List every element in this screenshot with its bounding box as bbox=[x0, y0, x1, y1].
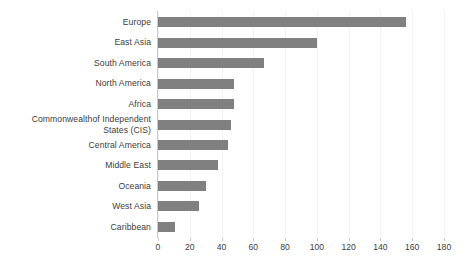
gridline bbox=[412, 12, 413, 237]
tick-label: 180 bbox=[437, 242, 451, 253]
tick-mark bbox=[349, 238, 350, 241]
category-axis-labels: EuropeEast AsiaSouth AmericaNorth Americ… bbox=[0, 12, 155, 237]
bar bbox=[158, 201, 199, 211]
tick-label: 0 bbox=[156, 242, 161, 253]
tick-mark bbox=[412, 238, 413, 241]
category-label: Middle East bbox=[0, 160, 151, 170]
bar bbox=[158, 58, 264, 68]
bar-chart: EuropeEast AsiaSouth AmericaNorth Americ… bbox=[0, 0, 467, 272]
tick-mark bbox=[444, 238, 445, 241]
category-label: North America bbox=[0, 78, 151, 88]
value-axis-line bbox=[157, 11, 158, 238]
tick-label: 80 bbox=[280, 242, 290, 253]
gridline bbox=[444, 12, 445, 237]
tick-label: 60 bbox=[249, 242, 259, 253]
tick-label: 20 bbox=[185, 242, 195, 253]
tick-mark bbox=[253, 238, 254, 241]
bar bbox=[158, 140, 228, 150]
category-label: East Asia bbox=[0, 37, 151, 47]
category-label: West Asia bbox=[0, 201, 151, 211]
bar bbox=[158, 79, 234, 89]
category-label: Central America bbox=[0, 140, 151, 150]
category-label: South America bbox=[0, 58, 151, 68]
bar bbox=[158, 160, 218, 170]
bar bbox=[158, 120, 231, 130]
bar bbox=[158, 38, 317, 48]
tick-label: 40 bbox=[217, 242, 227, 253]
category-label: Oceania bbox=[0, 181, 151, 191]
tick-mark bbox=[222, 238, 223, 241]
category-label: Africa bbox=[0, 99, 151, 109]
category-label: Caribbean bbox=[0, 222, 151, 232]
tick-label: 100 bbox=[310, 242, 324, 253]
gridline bbox=[317, 12, 318, 237]
tick-mark bbox=[380, 238, 381, 241]
tick-label: 140 bbox=[373, 242, 387, 253]
tick-mark bbox=[158, 238, 159, 241]
tick-mark bbox=[285, 238, 286, 241]
tick-label: 120 bbox=[341, 242, 355, 253]
gridline bbox=[380, 12, 381, 237]
tick-mark bbox=[317, 238, 318, 241]
bar bbox=[158, 181, 206, 191]
category-label: Europe bbox=[0, 17, 151, 27]
bar bbox=[158, 99, 234, 109]
tick-label: 160 bbox=[405, 242, 419, 253]
tick-mark bbox=[190, 238, 191, 241]
plot-area bbox=[158, 12, 444, 237]
value-axis: 020406080100120140160180 bbox=[158, 238, 444, 260]
bar bbox=[158, 17, 406, 27]
bar bbox=[158, 222, 175, 232]
gridline bbox=[349, 12, 350, 237]
category-label: Commonwealthof Independent States (CIS) bbox=[0, 114, 151, 135]
